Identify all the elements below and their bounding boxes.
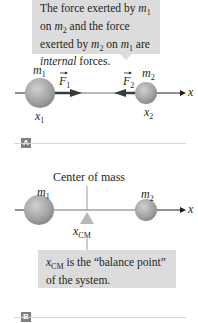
center-of-mass-label: Center of mass [53, 170, 125, 185]
callout-line-2: of the system. [46, 274, 176, 288]
mass-2-label: m2 [142, 66, 155, 82]
callout-line-1: xCM is the “balance point” [46, 256, 176, 274]
mass-1-sphere [25, 78, 55, 108]
x-axis-label: x [188, 202, 193, 217]
mass-1-label: m1 [33, 63, 46, 79]
position-2-label: x2 [144, 105, 153, 121]
force-2-label: F2 [123, 74, 134, 90]
x-axis-label: x [188, 85, 193, 100]
panel-b-divider [14, 317, 186, 318]
fulcrum [80, 212, 94, 224]
force-1-label: F1 [59, 74, 70, 90]
mass-1-label: m1 [37, 185, 50, 201]
x-cm-label: xCM [73, 224, 91, 240]
mass-2-sphere [135, 82, 157, 104]
balance-point-callout: xCM is the “balance point” of the system… [38, 250, 176, 288]
position-1-label: x1 [35, 109, 44, 125]
panel-a-divider [14, 143, 186, 144]
mass-2-label: m2 [141, 187, 154, 203]
